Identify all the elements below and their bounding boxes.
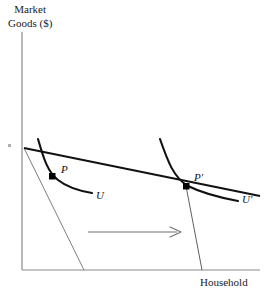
point-p-label: P (61, 163, 68, 175)
curve-u-prime-label: U′ (242, 193, 252, 205)
shift-arrow-group (88, 227, 181, 237)
diagram-canvas (0, 0, 270, 291)
indifference-curve-u-prime-group (160, 139, 238, 201)
curve-u-label: U (96, 189, 104, 201)
point-p-prime-label: P′ (194, 171, 203, 183)
axes-group (22, 32, 260, 270)
indifference-curve-diagram: Market Goods ($) Household (0, 0, 270, 291)
new-budget-line-steep-segment (186, 186, 202, 270)
indifference-curve-u-prime (160, 139, 238, 201)
point-p-prime-marker (183, 183, 190, 190)
original-budget-line-group (24, 148, 84, 270)
new-budget-line (24, 148, 260, 196)
point-p-marker (49, 173, 56, 180)
original-budget-line (24, 148, 84, 270)
new-budget-line-group (24, 148, 260, 270)
